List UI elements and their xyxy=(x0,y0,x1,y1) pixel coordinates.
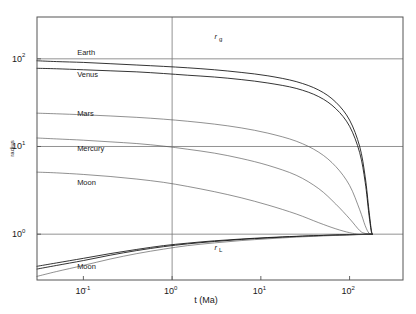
axis-ticks: 10−1100101102102101100 xyxy=(12,52,355,296)
xtick-label-0: 10−1 xyxy=(75,285,91,297)
xtick-label-1: 100 xyxy=(164,285,178,297)
svg-text:10: 10 xyxy=(12,229,22,239)
series-label-mars: Mars xyxy=(77,109,94,118)
svg-text:0: 0 xyxy=(174,285,178,291)
svg-text:10: 10 xyxy=(164,286,174,296)
y-axis-title: radius xyxy=(9,140,15,156)
svg-text:10: 10 xyxy=(253,286,263,296)
svg-text:r: r xyxy=(214,32,217,41)
svg-text:10: 10 xyxy=(12,54,22,64)
series-label-moon-rl: Moon xyxy=(77,262,96,271)
ytick-label-0: 102 xyxy=(12,52,26,64)
annotation-r-l: rL xyxy=(214,243,223,254)
svg-text:1: 1 xyxy=(263,285,267,291)
svg-text:10: 10 xyxy=(342,286,352,296)
figure-container: 10−1100101102102101100 t (Ma)radiusEarth… xyxy=(0,0,416,314)
svg-text:−1: −1 xyxy=(83,285,91,291)
chart-plot: 10−1100101102102101100 t (Ma)radiusEarth… xyxy=(0,0,416,314)
curve-mars xyxy=(37,113,372,234)
annotation-r-g: rg xyxy=(214,32,222,43)
svg-text:r: r xyxy=(214,243,217,252)
series-label-venus: Venus xyxy=(77,70,98,79)
svg-text:0: 0 xyxy=(22,228,26,234)
series-label-moon: Moon xyxy=(77,178,96,187)
data-curves xyxy=(37,61,372,277)
series-label-earth: Earth xyxy=(77,48,95,57)
svg-text:1: 1 xyxy=(22,140,26,146)
svg-text:g: g xyxy=(219,36,222,42)
svg-text:L: L xyxy=(219,247,223,253)
svg-text:2: 2 xyxy=(351,285,355,291)
chart-labels: t (Ma)radiusEarthVenusMarsMercuryMoonMoo… xyxy=(9,32,223,305)
xtick-label-3: 102 xyxy=(342,285,356,297)
xtick-label-2: 101 xyxy=(253,285,267,297)
series-label-mercury: Mercury xyxy=(77,144,104,153)
ytick-label-2: 100 xyxy=(12,228,26,240)
x-axis-title: t (Ma) xyxy=(194,295,218,305)
svg-text:2: 2 xyxy=(22,52,26,58)
